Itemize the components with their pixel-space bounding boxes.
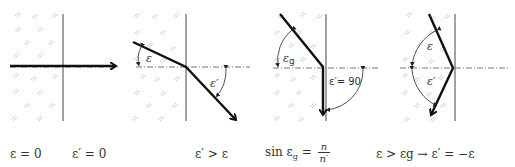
panel-oblique-refraction: ε ε′: [132, 13, 250, 121]
formula-equals: =: [302, 145, 312, 159]
incidence-angle-arc: [138, 47, 141, 66]
light-ray: [429, 14, 453, 115]
glass-hatching: [274, 12, 322, 122]
refraction-diagram: ε ε′ εg ε′= 90: [0, 0, 515, 167]
glass-hatching: [402, 12, 450, 122]
formula-oblique-condition: ε′ > ε: [195, 147, 228, 161]
refraction-angle-label: ε′: [210, 77, 219, 90]
formula-lhs-subscript: g: [293, 152, 298, 161]
formula-critical-angle: sin εg = n n′: [265, 141, 330, 164]
formula-incidence-zero: ε = 0: [10, 147, 42, 161]
formula-refraction-zero: ε′ = 0: [72, 147, 106, 161]
reflection-angle-label: ε′: [427, 75, 436, 88]
incidence-angle-label: ε: [146, 52, 152, 65]
fraction-numerator: n: [318, 141, 331, 153]
formula-lhs: sin ε: [265, 145, 293, 159]
fraction: n n′: [318, 141, 331, 164]
incidence-angle-label: ε: [427, 40, 433, 53]
panel-normal-incidence: [10, 12, 118, 121]
panel-total-internal-reflection: ε ε′: [400, 12, 510, 122]
formula-total-reflection: ε > εg → ε′ = −ε: [376, 147, 474, 161]
panel-critical-angle: εg ε′= 90: [273, 12, 380, 122]
fraction-denominator: n′: [318, 153, 331, 164]
refraction-angle-label: ε′= 90: [329, 76, 361, 87]
critical-angle-label: εg: [283, 52, 295, 66]
